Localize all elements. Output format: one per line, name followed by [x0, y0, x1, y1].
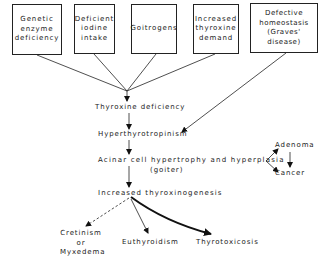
edge-to-cretinism-dashed [86, 198, 129, 226]
cause-line: Increased [195, 15, 237, 25]
node-acinar-hypertrophy: Acinar cell hypertrophy and hyperplasia [98, 156, 285, 166]
cause-line: Genetic [15, 15, 60, 25]
node-cretinism-or-myxedema: Cretinism or Myxedema [60, 229, 102, 258]
cause-label: Goitrogens [130, 24, 177, 34]
cause-label: Defective homeostasis (Graves' disease) [251, 9, 317, 47]
outcome-line: Cretinism [60, 229, 102, 239]
edge-iodine-to-deficiency [94, 54, 127, 91]
cause-line: Defective [251, 9, 317, 19]
cause-label: Deficient iodine intake [75, 15, 115, 44]
node-hyperthyrotropinism: Hyperthyrotropinism [98, 130, 187, 140]
cause-line: iodine [75, 24, 115, 34]
node-euthyroidism: Euthyroidism [122, 238, 179, 248]
cause-line: Goitrogens [130, 24, 177, 34]
cause-line: homeostasis [251, 19, 317, 29]
cause-box-genetic-enzyme-deficiency: Genetic enzyme deficiency [12, 4, 62, 55]
node-adenoma: Adenoma [275, 141, 315, 151]
outcome-line: Myxedema [60, 248, 102, 258]
node-thyrotoxicosis: Thyrotoxicosis [196, 238, 259, 248]
node-thyroxine-deficiency: Thyroxine deficiency [95, 103, 185, 113]
node-increased-thyroxinogenesis: Increased thyroxinogenesis [98, 189, 223, 199]
edge-to-thyrotoxicosis-bold [131, 197, 211, 234]
cause-line: Deficient [75, 15, 115, 25]
node-cancer: Cancer [275, 169, 305, 179]
cause-label: Increased thyroxine demand [195, 15, 237, 44]
cause-line: demand [195, 34, 237, 44]
cause-line: (Graves' disease) [251, 28, 317, 47]
cause-line: thyroxine [195, 24, 237, 34]
edge-genetic-to-deficiency [37, 55, 127, 91]
node-goiter: (goiter) [150, 166, 183, 176]
edge-goitrogens-to-deficiency [127, 54, 156, 91]
outcome-line: or [60, 239, 102, 249]
cause-box-defective-homeostasis: Defective homeostasis (Graves' disease) [250, 3, 318, 53]
cause-line: enzyme [15, 25, 60, 35]
edge-graves-to-hyperthyrotropinism [182, 53, 286, 132]
cause-line: intake [75, 34, 115, 44]
cause-box-goitrogens: Goitrogens [131, 4, 177, 54]
cause-box-increased-thyroxine-demand: Increased thyroxine demand [193, 4, 239, 54]
cause-line: deficiency [15, 34, 60, 44]
edge-demand-to-deficiency [127, 54, 215, 91]
cause-box-deficient-iodine-intake: Deficient iodine intake [74, 4, 115, 54]
cause-label: Genetic enzyme deficiency [15, 15, 60, 44]
